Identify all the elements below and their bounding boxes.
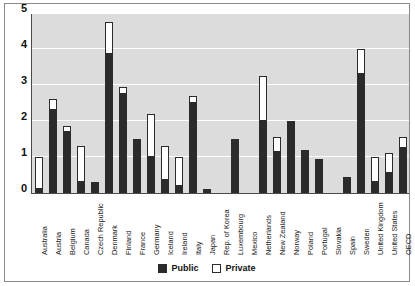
bar-segment-public bbox=[399, 148, 406, 193]
bar-group bbox=[35, 14, 42, 193]
chart-legend: PublicPrivate bbox=[5, 260, 409, 276]
bar-segment-private bbox=[49, 99, 56, 110]
bar-group bbox=[385, 14, 392, 193]
legend-swatch-private bbox=[212, 264, 221, 273]
plot-area bbox=[31, 14, 409, 194]
bar-segment-public bbox=[161, 180, 168, 193]
chart-figure: 012345 AustraliaAustriaBelgiumCanadaCzec… bbox=[0, 0, 415, 286]
bar-group bbox=[399, 14, 406, 193]
x-axis-label: Belgium bbox=[69, 228, 76, 255]
bar-series-group bbox=[32, 14, 409, 193]
y-axis-tick-label: 3 bbox=[7, 75, 27, 86]
bar-segment-public bbox=[273, 152, 280, 193]
chart-frame: 012345 AustraliaAustriaBelgiumCanadaCzec… bbox=[4, 3, 410, 282]
bar-group bbox=[259, 14, 266, 193]
bar-segment-private bbox=[105, 22, 112, 54]
bar-segment-private bbox=[259, 76, 266, 121]
x-axis-label: New Zealand bbox=[279, 211, 286, 255]
x-axis-label: Japan bbox=[209, 235, 216, 255]
x-axis-label: United States bbox=[391, 211, 398, 255]
bar-segment-private bbox=[287, 121, 294, 123]
x-axis-labels: AustraliaAustriaBelgiumCanadaCzech Repub… bbox=[31, 195, 409, 257]
bar-group bbox=[49, 14, 56, 193]
y-axis-tick-label: 0 bbox=[7, 183, 27, 194]
bar-segment-private bbox=[175, 157, 182, 186]
bar-segment-public bbox=[343, 177, 350, 193]
x-axis-label: Germany bbox=[153, 225, 160, 255]
y-axis-tick-label: 1 bbox=[7, 147, 27, 158]
bar-segment-public bbox=[287, 123, 294, 193]
x-axis-label: OECD bbox=[405, 234, 412, 255]
bar-segment-public bbox=[119, 94, 126, 193]
bar-segment-public bbox=[175, 186, 182, 193]
bar-segment-public bbox=[371, 182, 378, 193]
bar-group bbox=[91, 14, 98, 193]
bar-group bbox=[245, 14, 252, 193]
bar-segment-private bbox=[161, 146, 168, 180]
legend-swatch-public bbox=[158, 264, 167, 273]
x-axis-label: Portugal bbox=[321, 227, 328, 255]
bar-segment-private bbox=[273, 137, 280, 151]
bar-segment-private bbox=[77, 146, 84, 182]
bar-segment-public bbox=[91, 182, 98, 193]
y-axis-tick-label: 5 bbox=[7, 3, 27, 14]
x-axis-label: Czech Republic bbox=[97, 203, 104, 255]
bar-group bbox=[371, 14, 378, 193]
bar-group bbox=[301, 14, 308, 193]
bar-group bbox=[273, 14, 280, 193]
bar-segment-public bbox=[133, 139, 140, 193]
bar-segment-private bbox=[119, 87, 126, 94]
bar-group bbox=[343, 14, 350, 193]
x-axis-label: Luxembourg bbox=[237, 214, 244, 255]
legend-item: Private bbox=[212, 263, 255, 273]
bar-group bbox=[231, 14, 238, 193]
bar-segment-private bbox=[189, 96, 196, 103]
bar-segment-public bbox=[301, 150, 308, 193]
bar-segment-private bbox=[371, 157, 378, 182]
bar-segment-public bbox=[147, 157, 154, 193]
bar-group bbox=[105, 14, 112, 193]
bar-group bbox=[77, 14, 84, 193]
bar-group bbox=[133, 14, 140, 193]
bar-segment-private bbox=[231, 139, 238, 141]
bar-group bbox=[161, 14, 168, 193]
bar-segment-private bbox=[399, 137, 406, 148]
bar-segment-private bbox=[147, 114, 154, 157]
bar-segment-private bbox=[357, 49, 364, 74]
x-axis-label: Slovakia bbox=[335, 227, 342, 255]
bar-group bbox=[189, 14, 196, 193]
bar-group bbox=[217, 14, 224, 193]
bar-group bbox=[203, 14, 210, 193]
bar-segment-public bbox=[231, 141, 238, 193]
bar-segment-private bbox=[35, 157, 42, 189]
x-axis-label: United Kingdom bbox=[377, 202, 384, 255]
bar-group bbox=[119, 14, 126, 193]
x-axis-label: Netherlands bbox=[265, 215, 272, 255]
bar-segment-public bbox=[35, 189, 42, 193]
bar-group bbox=[315, 14, 322, 193]
bar-segment-private bbox=[385, 153, 392, 173]
x-axis-label: Norway bbox=[293, 230, 300, 255]
y-axis: 012345 bbox=[5, 14, 27, 194]
x-axis-label: Mexico bbox=[251, 232, 258, 255]
x-axis-label: Austria bbox=[55, 232, 62, 255]
x-axis-label: Canada bbox=[83, 229, 90, 255]
bar-segment-private bbox=[63, 126, 70, 131]
bar-segment-public bbox=[77, 182, 84, 193]
bar-group bbox=[329, 14, 336, 193]
x-axis-label: Australia bbox=[41, 226, 48, 255]
x-axis-label: Sweden bbox=[363, 228, 370, 255]
bar-segment-public bbox=[49, 110, 56, 193]
x-axis-label: Denmark bbox=[111, 225, 118, 255]
legend-item: Public bbox=[158, 263, 198, 273]
x-axis-label: Italy bbox=[195, 241, 202, 255]
x-axis-label: Ireland bbox=[181, 232, 188, 255]
bar-segment-public bbox=[357, 74, 364, 193]
gridline bbox=[32, 12, 409, 13]
y-axis-tick-label: 2 bbox=[7, 111, 27, 122]
bar-segment-public bbox=[315, 159, 322, 193]
bar-segment-public bbox=[203, 189, 210, 193]
bar-segment-public bbox=[189, 103, 196, 193]
bar-group bbox=[287, 14, 294, 193]
bar-segment-public bbox=[63, 132, 70, 193]
